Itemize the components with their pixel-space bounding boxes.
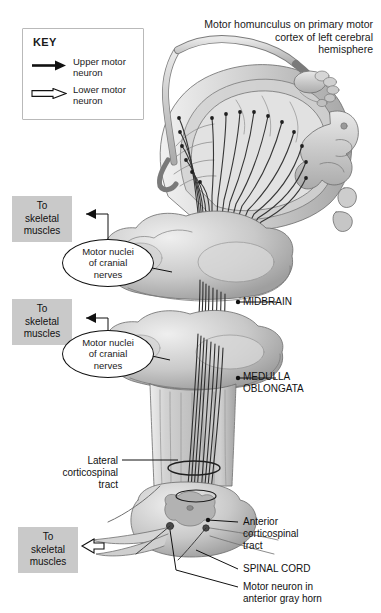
label-motor-neuron-line-1: Motor neuron in (243, 581, 379, 593)
balloon-1-line-2: of cranial (82, 257, 134, 269)
balloon-motor-nuclei-cranial-nerves-1: Motor nuclei of cranial nerves (62, 239, 154, 287)
figure-title: Motor homunculus on primary motor cortex… (158, 18, 373, 56)
key-item-lower-label: Lower motor neuron (73, 85, 145, 106)
key-lower-line-1: Lower motor (73, 85, 145, 96)
label-anterior-line-2: corticospinal (243, 528, 373, 540)
callout-1-line-1: To (18, 200, 66, 213)
label-medulla-line-2: OBLONGATA (243, 383, 304, 395)
key-heading: KEY (33, 36, 57, 48)
label-lateral-line-3: tract (22, 479, 118, 491)
balloon-2-line-2: of cranial (82, 348, 134, 360)
figure-title-line-3: hemisphere (158, 43, 373, 56)
label-anterior-line-1: Anterior (243, 516, 373, 528)
label-anterior-corticospinal-tract: Anterior corticospinal tract (243, 516, 373, 553)
label-anterior-line-3: tract (243, 540, 373, 552)
label-medulla-line-1: MEDULLA (243, 371, 304, 383)
figure-title-line-1: Motor homunculus on primary motor (158, 18, 373, 31)
callout-to-skeletal-muscles-2: To skeletal muscles (12, 299, 72, 345)
figure-title-line-2: cortex of left cerebral (158, 31, 373, 44)
label-midbrain: MIDBRAIN (243, 296, 292, 308)
callout-2-line-3: muscles (18, 328, 66, 341)
key-item-upper-label: Upper motor neuron (73, 57, 145, 78)
balloon-motor-nuclei-cranial-nerves-2: Motor nuclei of cranial nerves (62, 330, 154, 378)
callout-1-line-2: skeletal (18, 213, 66, 226)
callout-2-line-2: skeletal (18, 316, 66, 329)
callout-2-line-1: To (18, 303, 66, 316)
key-upper-line-2: neuron (73, 68, 145, 79)
callout-3-line-1: To (24, 531, 72, 544)
figure-canvas: Motor homunculus on primary motor cortex… (0, 0, 381, 613)
balloon-1-line-1: Motor nuclei (82, 246, 134, 258)
solid-arrow-icon (31, 60, 67, 71)
balloon-2-line-1: Motor nuclei (82, 337, 134, 349)
callout-to-skeletal-muscles-3: To skeletal muscles (18, 527, 78, 573)
key-lower-line-2: neuron (73, 96, 145, 107)
hollow-arrow-icon (31, 88, 67, 99)
label-lateral-line-1: Lateral (22, 455, 118, 467)
label-medulla-oblongata: MEDULLA OBLONGATA (243, 371, 304, 395)
label-lateral-line-2: corticospinal (22, 467, 118, 479)
label-spinal-cord: SPINAL CORD (243, 563, 310, 575)
key-upper-line-1: Upper motor (73, 57, 145, 68)
callout-1-line-3: muscles (18, 225, 66, 238)
label-motor-neuron-anterior-gray-horn: Motor neuron in anterior gray horn (243, 581, 379, 605)
key-legend: KEY Upper motor neuron Lower motor neuro… (22, 28, 144, 120)
callout-3-line-2: skeletal (24, 544, 72, 557)
balloon-1-line-3: nerves (82, 269, 134, 281)
label-motor-neuron-line-2: anterior gray horn (243, 593, 379, 605)
balloon-2-line-3: nerves (82, 360, 134, 372)
label-lateral-corticospinal-tract: Lateral corticospinal tract (22, 455, 118, 492)
callout-to-skeletal-muscles-1: To skeletal muscles (12, 196, 72, 242)
callout-3-line-3: muscles (24, 556, 72, 569)
